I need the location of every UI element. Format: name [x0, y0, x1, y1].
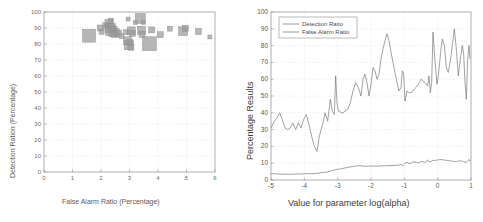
svg-text:-3: -3	[335, 182, 341, 189]
svg-text:4: 4	[156, 175, 160, 181]
svg-text:60: 60	[261, 75, 269, 82]
line-x-axis-title: Value for parameter log(alpha)	[288, 198, 409, 208]
scatter-x-axis-title: False Alarm Ratio (Percentage)	[62, 198, 160, 205]
svg-text:50: 50	[261, 92, 269, 99]
svg-text:90: 90	[261, 25, 269, 32]
svg-text:50: 50	[34, 89, 41, 95]
svg-text:70: 70	[261, 58, 269, 65]
svg-text:False Alarm Ratio: False Alarm Ratio	[302, 29, 350, 35]
svg-text:40: 40	[261, 109, 269, 116]
line-figure: 0102030405060708090100-5-4-3-2-101Detect…	[241, 0, 483, 222]
svg-text:40: 40	[34, 105, 41, 111]
svg-text:30: 30	[34, 121, 41, 127]
svg-text:0: 0	[436, 182, 440, 189]
scatter-y-axis-title: Detection Ration (Percentage)	[9, 84, 16, 178]
svg-text:30: 30	[261, 126, 269, 133]
svg-text:20: 20	[261, 142, 269, 149]
svg-text:2: 2	[99, 175, 103, 181]
svg-text:0: 0	[38, 169, 42, 175]
svg-text:6: 6	[213, 175, 217, 181]
svg-text:80: 80	[34, 41, 41, 47]
svg-text:-1: -1	[401, 182, 407, 189]
svg-text:100: 100	[31, 9, 42, 15]
svg-text:-2: -2	[368, 182, 374, 189]
svg-text:10: 10	[261, 159, 269, 166]
svg-text:100: 100	[257, 8, 268, 15]
svg-text:10: 10	[34, 153, 41, 159]
svg-text:80: 80	[261, 42, 269, 49]
scatter-figure: 01020304050607080901000123456 Detection …	[0, 0, 242, 222]
svg-text:90: 90	[34, 25, 41, 31]
line-plot-svg: 0102030405060708090100-5-4-3-2-101Detect…	[241, 0, 483, 222]
scatter-plot-svg: 01020304050607080901000123456	[0, 0, 242, 222]
svg-text:5: 5	[185, 175, 189, 181]
line-y-axis-title: Percentage Results	[245, 81, 255, 160]
svg-text:1: 1	[71, 175, 75, 181]
svg-text:-5: -5	[268, 182, 274, 189]
svg-text:1: 1	[469, 182, 473, 189]
svg-text:0: 0	[42, 175, 46, 181]
svg-text:60: 60	[34, 73, 41, 79]
svg-text:3: 3	[128, 175, 132, 181]
svg-text:Detection Ratio: Detection Ratio	[302, 21, 344, 27]
figure-root: 01020304050607080901000123456 Detection …	[0, 0, 483, 222]
svg-text:70: 70	[34, 57, 41, 63]
svg-text:20: 20	[34, 137, 41, 143]
svg-text:-4: -4	[301, 182, 307, 189]
